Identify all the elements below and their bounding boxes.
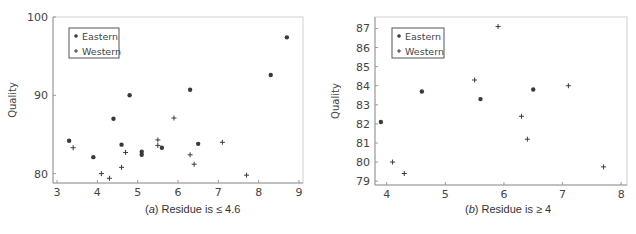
caption-a-letter: a — [149, 203, 155, 215]
y-tick-label: 80 — [356, 156, 370, 169]
x-tick-label: 5 — [134, 186, 141, 199]
y-tick-label: 82 — [356, 118, 370, 131]
x-tick-label: 9 — [295, 186, 302, 199]
legend-label: Western — [405, 46, 444, 57]
data-point-plus — [119, 165, 124, 170]
y-tick-label: 86 — [356, 42, 370, 55]
x-tick-label: 5 — [442, 188, 449, 200]
caption-b-text: Residue is ≥ 4 — [478, 203, 551, 215]
data-point-plus — [155, 143, 160, 148]
data-point-plus — [155, 137, 160, 142]
legend: EasternWestern — [69, 28, 121, 58]
caption-b-letter: b — [469, 203, 475, 215]
legend-label: Eastern — [405, 31, 441, 42]
y-tick-label: 84 — [356, 80, 370, 93]
y-tick-label: 100 — [27, 11, 48, 24]
caption-a: (a) Residue is ≤ 4.6 — [145, 203, 240, 215]
y-tick-label: 81 — [356, 137, 370, 150]
caption-b: (b) Residue is ≥ 4 — [465, 203, 551, 215]
legend-dot-icon — [397, 34, 401, 38]
x-tick-label: 4 — [383, 188, 390, 200]
data-point-dot — [188, 88, 192, 92]
data-point-plus — [107, 176, 112, 181]
chart-panel-a: 34567898090100FoamQualityEasternWestern … — [0, 0, 318, 234]
scatter-plot-b: 45678798081828384858687FoamQualityEaster… — [318, 0, 636, 200]
x-tick-label: 4 — [94, 186, 101, 199]
data-point-dot — [420, 89, 424, 93]
data-point-plus — [496, 24, 501, 29]
data-point-plus — [192, 162, 197, 167]
legend-dot-icon — [74, 34, 78, 38]
y-tick-label: 90 — [34, 89, 48, 102]
legend: EasternWestern — [392, 28, 444, 58]
data-point-plus — [525, 137, 530, 142]
data-point-plus — [71, 145, 76, 150]
data-point-plus — [123, 150, 128, 155]
data-point-dot — [379, 120, 383, 124]
y-tick-label: 80 — [34, 168, 48, 181]
x-tick-label: 8 — [255, 186, 262, 199]
chart-panel-b: 45678798081828384858687FoamQualityEaster… — [318, 0, 636, 234]
data-point-plus — [171, 116, 176, 121]
data-point-plus — [244, 173, 249, 178]
data-point-plus — [472, 78, 477, 83]
data-point-dot — [91, 155, 95, 159]
data-point-plus — [188, 152, 193, 157]
data-point-dot — [269, 73, 273, 77]
y-axis-label: Quality — [330, 83, 341, 119]
y-tick-label: 79 — [356, 175, 370, 188]
data-point-dot — [160, 146, 164, 150]
data-point-dot — [127, 93, 131, 97]
x-tick-label: 6 — [175, 186, 182, 199]
data-point-plus — [390, 160, 395, 165]
y-tick-label: 85 — [356, 61, 370, 74]
data-point-plus — [566, 83, 571, 88]
data-point-plus — [402, 171, 407, 176]
data-point-dot — [478, 97, 482, 101]
x-tick-label: 7 — [559, 188, 566, 200]
caption-a-text: Residue is ≤ 4.6 — [158, 203, 240, 215]
y-axis-label: Quality — [7, 82, 18, 118]
legend-label: Western — [82, 46, 121, 57]
data-point-dot — [531, 87, 535, 91]
data-point-plus — [519, 114, 524, 119]
data-point-plus — [99, 171, 104, 176]
data-point-dot — [67, 139, 71, 143]
x-tick-label: 7 — [215, 186, 222, 199]
series-eastern — [379, 87, 536, 124]
y-tick-label: 87 — [356, 22, 370, 35]
x-tick-label: 3 — [54, 186, 61, 199]
data-point-dot — [111, 117, 115, 121]
data-point-plus — [601, 164, 606, 169]
x-tick-label: 6 — [500, 188, 507, 200]
y-tick-label: 83 — [356, 99, 370, 112]
data-point-dot — [140, 153, 144, 157]
data-point-dot — [196, 142, 200, 146]
legend-label: Eastern — [82, 31, 118, 42]
scatter-plot-a: 34567898090100FoamQualityEasternWestern — [0, 0, 318, 200]
data-point-plus — [220, 140, 225, 145]
data-point-dot — [119, 142, 123, 146]
data-point-dot — [285, 35, 289, 39]
x-tick-label: 8 — [618, 188, 625, 200]
